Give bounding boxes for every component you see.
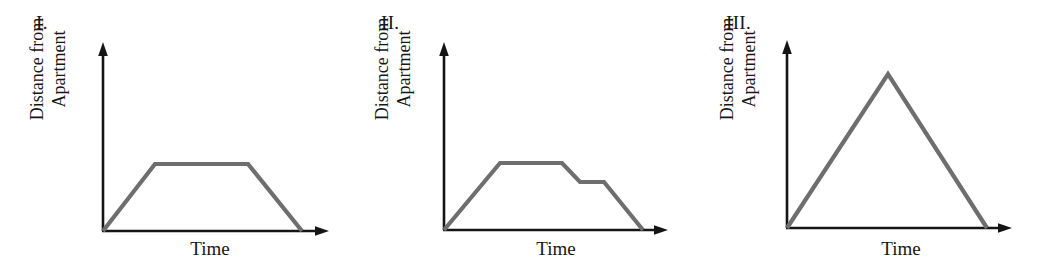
x-axis-label-1: Time <box>115 238 305 260</box>
x-axis-label-2: Time <box>461 238 651 260</box>
data-curve-1 <box>103 164 302 231</box>
y-axis-arrowhead-1 <box>98 42 108 56</box>
x-axis-arrowhead-1 <box>315 226 329 236</box>
plot-area-3 <box>690 0 1038 271</box>
chart-panel-3: III. Distance from Apartment Time <box>690 0 1038 271</box>
data-curve-3 <box>787 74 987 228</box>
plot-area-2 <box>345 0 693 271</box>
plot-area-1 <box>0 0 348 271</box>
y-axis-arrowhead-3 <box>782 40 792 54</box>
x-axis-arrowhead-3 <box>998 223 1012 233</box>
x-axis-arrowhead-2 <box>654 225 668 235</box>
chart-panel-1: I. Distance from Apartment Time <box>0 0 348 271</box>
chart-panel-2: II. Distance from Apartment Time <box>345 0 693 271</box>
x-axis-label-3: Time <box>806 238 996 260</box>
figure-root: I. Distance from Apartment Time II. Dist… <box>0 0 1045 271</box>
data-curve-2 <box>444 163 643 230</box>
y-axis-arrowhead-2 <box>439 42 449 56</box>
